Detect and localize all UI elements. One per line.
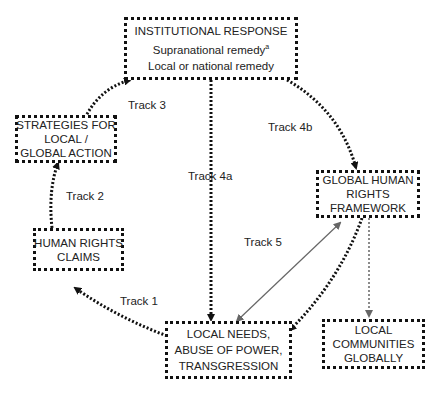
node-claims-line2: CLAIMS — [57, 250, 100, 264]
node-institutional-title: INSTITUTIONAL RESPONSE — [135, 23, 288, 39]
label-track-1: Track 1 — [120, 295, 158, 307]
label-track-3: Track 3 — [128, 99, 166, 111]
framework-to-local-needs-arrow — [290, 218, 362, 330]
node-claims-line1: HUMAN RIGHTS — [34, 236, 123, 250]
node-framework-line3: FRAMEWORK — [330, 201, 406, 215]
label-track-2: Track 2 — [66, 190, 104, 202]
label-track-4a: Track 4a — [188, 170, 232, 182]
node-communities-line2: COMMUNITIES — [333, 337, 415, 351]
node-institutional-supranational: Supranational remedya — [153, 39, 269, 58]
node-strategies-line1: STRATEGIES FOR — [16, 118, 115, 132]
node-strategies-line2: LOCAL / — [44, 132, 88, 146]
node-local-needs-line1: LOCAL NEEDS, — [187, 326, 270, 342]
node-local-needs: LOCAL NEEDS, ABUSE OF POWER, TRANSGRESSI… — [165, 321, 292, 379]
node-communities-line1: LOCAL — [355, 323, 393, 337]
node-global-framework: GLOBAL HUMAN RIGHTS FRAMEWORK — [316, 170, 420, 218]
node-framework-line2: RIGHTS — [346, 187, 389, 201]
label-track-4b: Track 4b — [268, 121, 312, 133]
node-local-communities: LOCAL COMMUNITIES GLOBALLY — [322, 319, 425, 369]
node-institutional-response: INSTITUTIONAL RESPONSE Supranational rem… — [124, 17, 298, 80]
track-3-arrow — [85, 80, 130, 118]
node-strategies: STRATEGIES FOR LOCAL / GLOBAL ACTION — [15, 115, 117, 163]
node-local-needs-line3: TRANSGRESSION — [179, 358, 279, 374]
label-track-5: Track 5 — [244, 236, 282, 248]
node-human-rights-claims: HUMAN RIGHTS CLAIMS — [33, 228, 124, 271]
node-communities-line3: GLOBALLY — [344, 351, 403, 365]
node-framework-line1: GLOBAL HUMAN — [323, 173, 414, 187]
node-strategies-line3: GLOBAL ACTION — [20, 146, 112, 160]
node-institutional-local: Local or national remedy — [148, 58, 274, 74]
track-2-arrow — [51, 163, 58, 228]
node-local-needs-line2: ABUSE OF POWER, — [175, 342, 283, 358]
